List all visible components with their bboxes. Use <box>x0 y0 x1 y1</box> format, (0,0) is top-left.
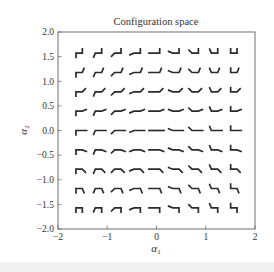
y-tick-label: 0.0 <box>42 126 54 136</box>
configuration-glyph <box>231 125 243 130</box>
configuration-glyph <box>188 88 202 92</box>
configuration-glyph <box>76 68 84 78</box>
configuration-glyph <box>168 88 183 92</box>
configuration-glyph <box>231 87 241 92</box>
configuration-glyph <box>231 203 237 213</box>
configuration-glyph <box>231 48 237 53</box>
configuration-glyph <box>231 67 239 72</box>
configuration-glyph <box>188 185 200 193</box>
y-tick-label: −1.5 <box>37 200 54 210</box>
configuration-glyph <box>148 208 160 213</box>
y-tick-label: −1.0 <box>37 175 54 185</box>
configuration-glyph <box>148 109 164 111</box>
configuration-glyph <box>188 68 200 73</box>
configuration-glyph <box>209 87 221 92</box>
configuration-glyph <box>129 150 145 152</box>
configuration-glyph <box>76 208 82 213</box>
configuration-glyph <box>111 88 125 95</box>
configuration-glyph <box>76 169 86 174</box>
configuration-glyph <box>129 68 142 75</box>
configuration-glyph <box>111 68 123 76</box>
configuration-glyph <box>148 68 162 73</box>
configuration-glyph <box>209 48 217 53</box>
configuration-glyph <box>93 88 105 96</box>
x-axis-label: α1 <box>151 242 161 256</box>
configuration-glyph <box>129 88 144 94</box>
configuration-glyph <box>76 109 87 116</box>
configuration-glyph <box>129 109 145 113</box>
configuration-glyph <box>111 131 126 135</box>
configuration-glyph <box>231 164 241 173</box>
configuration-glyph <box>76 88 86 97</box>
configuration-glyph <box>188 146 203 152</box>
configuration-glyphs <box>76 48 242 213</box>
configuration-glyph <box>111 109 126 115</box>
configuration-glyph <box>188 166 202 173</box>
y-tick-label: 1.0 <box>42 77 54 87</box>
configuration-glyph <box>148 189 162 194</box>
x-tick-label: 0 <box>154 232 159 242</box>
configuration-glyph <box>93 150 106 155</box>
configuration-space-figure: Configuration space −2−1012 −2.0−1.5−1.0… <box>0 0 274 260</box>
chart-canvas: Configuration space −2−1012 −2.0−1.5−1.0… <box>0 0 274 260</box>
configuration-glyph <box>168 187 181 194</box>
configuration-glyph <box>93 189 103 194</box>
configuration-glyph <box>188 204 198 213</box>
configuration-glyph <box>168 148 184 152</box>
configuration-glyph <box>111 208 121 213</box>
configuration-glyph <box>209 68 219 73</box>
configuration-glyph <box>129 48 140 55</box>
configuration-glyph <box>93 208 101 213</box>
configuration-glyph <box>129 189 142 194</box>
x-tick-label: 1 <box>203 232 208 242</box>
configuration-glyph <box>129 131 145 133</box>
configuration-glyph <box>93 169 105 174</box>
configuration-glyph <box>209 164 221 172</box>
configuration-glyph <box>168 109 184 111</box>
configuration-glyph <box>111 189 123 194</box>
configuration-glyph <box>168 206 179 213</box>
configuration-glyph <box>129 208 140 213</box>
configuration-glyph <box>148 150 164 152</box>
configuration-glyph <box>111 169 125 173</box>
y-tick-label: 0.5 <box>42 101 54 111</box>
configuration-glyph <box>93 109 106 116</box>
chart-title: Configuration space <box>114 16 199 27</box>
configuration-glyph <box>231 106 242 111</box>
configuration-glyph <box>76 48 82 58</box>
configuration-glyph <box>231 145 242 152</box>
configuration-glyph <box>129 169 144 173</box>
configuration-glyph <box>93 68 103 78</box>
configuration-glyph <box>188 127 203 131</box>
configuration-glyph <box>93 48 101 58</box>
configuration-glyph <box>111 48 121 57</box>
configuration-glyph <box>209 203 217 213</box>
configuration-glyph <box>111 150 126 154</box>
configuration-glyph <box>188 108 203 112</box>
configuration-glyph <box>209 145 222 152</box>
x-tick-label: −2 <box>53 232 63 242</box>
x-axis-ticks: −2−1012 <box>53 226 258 243</box>
configuration-glyph <box>148 169 163 173</box>
y-tick-label: 2.0 <box>42 27 54 37</box>
bottom-band <box>0 262 274 272</box>
y-tick-label: 1.5 <box>42 52 54 62</box>
configuration-glyph <box>209 184 219 194</box>
configuration-glyph <box>168 129 184 131</box>
configuration-glyph <box>93 131 107 136</box>
configuration-glyph <box>148 88 163 92</box>
x-tick-label: 2 <box>253 232 258 242</box>
configuration-glyph <box>209 106 222 111</box>
y-tick-label: −2.0 <box>37 224 54 234</box>
configuration-glyph <box>168 167 183 173</box>
configuration-glyph <box>76 150 87 155</box>
x-tick-label: −1 <box>102 232 112 242</box>
configuration-glyph <box>76 189 84 194</box>
configuration-glyph <box>209 126 223 131</box>
configuration-glyph <box>231 183 239 193</box>
y-tick-label: −0.5 <box>37 150 54 160</box>
configuration-glyph <box>168 68 181 73</box>
configuration-glyph <box>148 48 160 53</box>
configuration-glyph <box>188 48 198 53</box>
configuration-glyph <box>168 48 179 53</box>
